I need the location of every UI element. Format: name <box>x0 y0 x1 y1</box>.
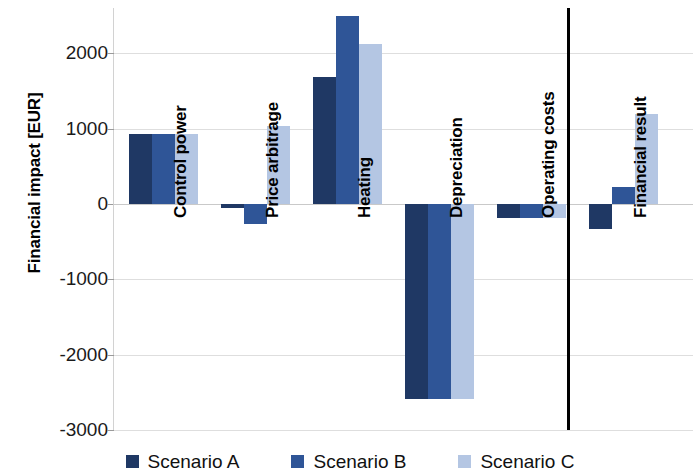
gridline <box>113 129 693 130</box>
category-label-heating: Heating <box>355 157 375 218</box>
bar-chart: Financial impact [EUR] 200010000-1000-20… <box>0 0 700 475</box>
bar-financial-result-scenario-a <box>589 204 612 229</box>
gridline <box>113 53 693 54</box>
bar-heating-scenario-a <box>313 77 336 204</box>
legend-item-scenario-b[interactable]: Scenario B <box>291 451 406 473</box>
legend-swatch-icon <box>126 455 139 468</box>
y-axis-tick-label: 0 <box>32 193 108 215</box>
bar-operating-costs-scenario-a <box>497 204 520 218</box>
category-separator-line <box>567 8 570 430</box>
bar-control-power-scenario-a <box>129 134 152 204</box>
chart-legend: Scenario AScenario BScenario C <box>0 448 700 475</box>
category-label-control-power: Control power <box>171 105 191 218</box>
y-axis-tick <box>107 430 114 431</box>
gridline <box>113 279 693 280</box>
y-axis-tick-label: -1000 <box>32 268 108 290</box>
category-label-price-arbitrage: Price arbitrage <box>263 102 283 218</box>
legend-swatch-icon <box>458 455 471 468</box>
y-axis-tick <box>107 53 114 54</box>
category-label-operating-costs: Operating costs <box>539 92 559 218</box>
gridline <box>113 355 693 356</box>
y-axis-tick <box>107 279 114 280</box>
plot-area: Control powerPrice arbitrageHeatingDepre… <box>113 8 693 430</box>
legend-item-scenario-a[interactable]: Scenario A <box>126 451 240 473</box>
y-axis-tick-label: 2000 <box>32 42 108 64</box>
bar-depreciation-scenario-b <box>428 204 451 399</box>
y-axis-tick-label: 1000 <box>32 118 108 140</box>
legend-label: Scenario C <box>480 451 574 473</box>
category-label-financial-result: Financial result <box>631 96 651 218</box>
bar-depreciation-scenario-c <box>451 204 474 399</box>
y-axis-tick <box>107 355 114 356</box>
legend-label: Scenario A <box>148 451 240 473</box>
y-axis-tick <box>107 129 114 130</box>
legend-item-scenario-c[interactable]: Scenario C <box>458 451 574 473</box>
y-axis-tick-label: -3000 <box>32 419 108 441</box>
y-axis-tick-labels: 200010000-1000-2000-3000 <box>28 0 108 475</box>
legend-swatch-icon <box>291 455 304 468</box>
legend-label: Scenario B <box>313 451 406 473</box>
gridline <box>113 430 693 431</box>
category-label-depreciation: Depreciation <box>447 117 467 218</box>
bar-depreciation-scenario-a <box>405 204 428 399</box>
y-axis-tick-label: -2000 <box>32 344 108 366</box>
y-axis-line <box>113 8 114 430</box>
bar-price-arbitrage-scenario-a <box>221 204 244 209</box>
